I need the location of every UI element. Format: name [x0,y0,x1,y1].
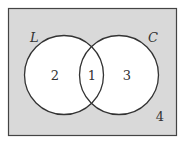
region-l-only-label: 2 [51,68,59,83]
set-c-label: C [148,30,158,45]
region-outside-label: 4 [156,109,164,124]
venn-diagram: L C 2 1 3 4 [0,0,181,143]
set-l-label: L [29,30,39,45]
region-c-only-label: 3 [123,68,131,83]
region-intersection-label: 1 [88,68,96,83]
